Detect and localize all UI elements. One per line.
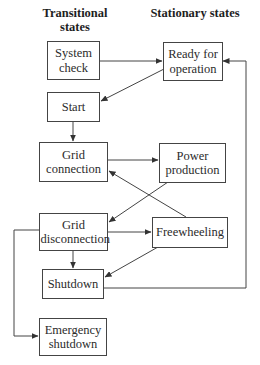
node-label: Freewheeling	[156, 225, 224, 240]
node-label: Grid disconnection	[41, 218, 107, 247]
node-freewheeling: Freewheeling	[152, 217, 228, 248]
node-label: System check	[54, 46, 94, 75]
node-shutdown: Shutdown	[42, 269, 104, 299]
node-emergency-shutdown: Emergency shutdown	[39, 318, 107, 356]
node-grid-connection: Grid connection	[39, 142, 108, 182]
edge-ready-to-start	[101, 69, 164, 101]
node-label: Ready for operation	[165, 47, 221, 76]
edge-freewheeling-to-shutdown	[105, 247, 158, 277]
node-label: Start	[62, 100, 86, 115]
node-ready-for-operation: Ready for operation	[163, 42, 223, 81]
edge-power-production-to-grid-disconnection	[109, 182, 168, 222]
node-label: Emergency shutdown	[41, 323, 105, 352]
node-label: Grid connection	[42, 148, 106, 177]
node-system-check: System check	[47, 41, 100, 80]
edge-grid-disconnection-to-emergency-shutdown	[14, 230, 39, 336]
node-grid-disconnection: Grid disconnection	[39, 213, 108, 251]
node-power-production: Power production	[159, 143, 226, 183]
node-start: Start	[47, 92, 100, 122]
node-label: Shutdown	[48, 277, 99, 292]
node-label: Power production	[162, 149, 224, 178]
